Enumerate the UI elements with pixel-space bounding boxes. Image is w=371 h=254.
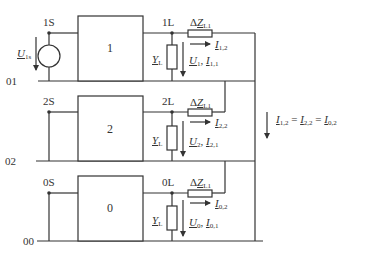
node-label-02: 02 [5, 156, 16, 167]
admittance-label-0: YL [152, 215, 162, 228]
box-label-2: 2 [107, 122, 113, 137]
node-0S-dot [47, 191, 51, 195]
impedance-label-2: ΔZL1 [190, 97, 211, 110]
node-label-2L: 2L [162, 96, 174, 107]
admittance-label-1: YL [152, 54, 162, 67]
box-label-1: 1 [107, 41, 113, 56]
impedance-2 [188, 109, 212, 116]
branch-current-label-2: I2,2 [215, 117, 227, 130]
node-label-0L: 0L [162, 177, 174, 188]
node-1S-dot [47, 31, 51, 35]
voltage-source-icon [38, 45, 60, 67]
circuit-diagram [0, 0, 371, 254]
source-voltage-label: U1s [17, 48, 31, 61]
impedance-0 [188, 190, 212, 197]
impedance-1 [188, 30, 212, 37]
voltage-current-label-0: U0, I0,1 [189, 217, 218, 230]
admittance-1 [167, 45, 177, 69]
impedance-label-1: ΔZL1 [190, 17, 211, 30]
node-label-1S: 1S [43, 17, 55, 28]
node-label-2S: 2S [43, 96, 55, 107]
admittance-2 [167, 126, 177, 150]
node-2L-dot [170, 110, 174, 114]
node-label-01: 01 [6, 76, 17, 87]
node-2S-dot [47, 110, 51, 114]
node-label-00: 00 [23, 236, 34, 247]
branch-current-label-1: I1,2 [215, 39, 227, 52]
box-label-0: 0 [107, 201, 113, 216]
impedance-label-0: ΔZL1 [190, 177, 211, 190]
node-label-1L: 1L [162, 17, 174, 28]
node-label-0S: 0S [43, 177, 55, 188]
admittance-0 [167, 206, 177, 230]
voltage-current-label-1: U1, I1,1 [189, 55, 218, 68]
node-0L-dot [170, 191, 174, 195]
network-0 [37, 161, 263, 241]
branch-current-label-0: I0,2 [215, 198, 227, 211]
voltage-current-label-2: U2, I2,1 [189, 136, 218, 149]
current-equality-equation: I1,2 = I2,2 = I0,2 [276, 114, 337, 127]
node-1L-dot [170, 31, 174, 35]
admittance-label-2: YL [152, 135, 162, 148]
